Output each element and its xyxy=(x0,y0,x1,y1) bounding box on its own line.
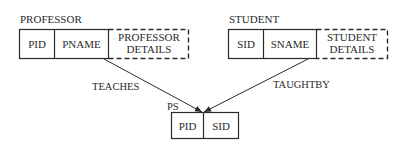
professor-title: PROFESSOR xyxy=(20,13,82,25)
professor-details-line1: PROFESSOR xyxy=(118,31,180,43)
professor-entity: PROFESSOR PID PNAME PROFESSOR DETAILS xyxy=(20,13,189,59)
student-details-line2: DETAILS xyxy=(330,43,375,55)
ps-entity: PS PID SID xyxy=(167,101,239,139)
teaches-label: TEACHES xyxy=(92,81,139,92)
ps-field-sid: SID xyxy=(212,120,230,132)
student-entity: STUDENT SID SNAME STUDENT DETAILS xyxy=(229,13,388,59)
student-details-line1: STUDENT xyxy=(327,31,377,43)
professor-details-line2: DETAILS xyxy=(127,43,172,55)
student-field-sname: SNAME xyxy=(271,38,310,50)
professor-field-pname: PNAME xyxy=(62,38,101,50)
taughtby-label: TAUGHTBY xyxy=(273,79,330,90)
professor-field-pid: PID xyxy=(28,38,46,50)
student-title: STUDENT xyxy=(229,13,279,25)
ps-title: PS xyxy=(167,101,179,112)
er-diagram: PROFESSOR PID PNAME PROFESSOR DETAILS ST… xyxy=(0,0,403,146)
ps-field-pid: PID xyxy=(179,120,197,132)
student-field-sid: SID xyxy=(237,38,255,50)
